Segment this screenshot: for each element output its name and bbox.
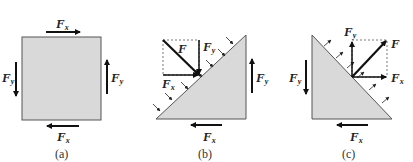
panel-c: F Fy Fx Fy Fx (c) <box>288 24 404 161</box>
label-right-fy: Fy <box>110 70 124 86</box>
panel-a: Fx Fx Fy Fy (a) <box>1 16 124 161</box>
shear-stress-diagram: Fx Fx Fy Fy (a) F Fy Fx <box>0 0 413 162</box>
label-left-fy: Fy <box>1 70 15 86</box>
label-component-fx-c: Fx <box>390 70 404 86</box>
label-right-fy-b: Fy <box>255 70 269 86</box>
label-bottom-fx-c: Fx <box>349 129 363 145</box>
label-left-fy-c: Fy <box>288 70 302 86</box>
caption-c: (c) <box>342 147 355 161</box>
panel-b: F Fy Fx Fy Fx (b) <box>153 35 269 161</box>
label-component-fy-c: Fy <box>343 24 357 40</box>
label-bottom-fx-b: Fx <box>202 129 216 145</box>
caption-b: (b) <box>198 147 212 161</box>
label-component-fy-b: Fy <box>202 39 216 55</box>
stress-element-square <box>22 37 101 120</box>
resultant-f-arrow-icon-c <box>352 41 386 77</box>
label-bottom-fx: Fx <box>56 129 70 145</box>
label-resultant-f-c: F <box>390 36 400 51</box>
label-resultant-f-b: F <box>177 41 187 56</box>
label-top-fx: Fx <box>55 16 69 32</box>
caption-a: (a) <box>55 147 68 161</box>
label-component-fx-b: Fx <box>161 76 175 92</box>
